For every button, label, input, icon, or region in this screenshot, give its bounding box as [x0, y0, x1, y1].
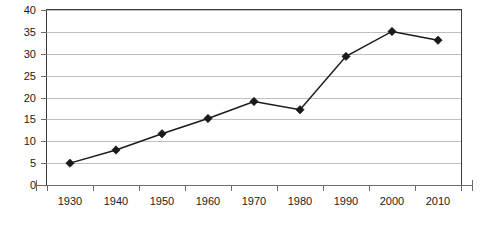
x-tick-label: 2000	[380, 195, 404, 207]
y-tick-label: 10	[24, 135, 36, 147]
x-axis-tick-labels: 193019401950196019701980199020002010	[58, 195, 450, 207]
y-tick-label: 35	[24, 26, 36, 38]
series-marker-group	[66, 27, 442, 167]
data-point-marker	[112, 146, 120, 154]
x-tick-label: 1940	[104, 195, 128, 207]
x-tick-label: 1970	[242, 195, 266, 207]
data-point-marker	[388, 27, 396, 35]
x-tick-label: 2010	[426, 195, 450, 207]
y-axis-tick-labels: 0510152025303540	[24, 4, 36, 191]
y-tick-label: 30	[24, 48, 36, 60]
data-point-marker	[434, 36, 442, 44]
line-chart: 0510152025303540 19301940195019601970198…	[0, 0, 486, 226]
x-tick-label: 1930	[58, 195, 82, 207]
y-tick-label: 5	[30, 157, 36, 169]
x-tick-label: 1980	[288, 195, 312, 207]
y-tick-label: 15	[24, 113, 36, 125]
x-tick-label: 1950	[150, 195, 174, 207]
x-tick-label: 1960	[196, 195, 220, 207]
y-tick-label: 20	[24, 92, 36, 104]
chart-canvas: 0510152025303540 19301940195019601970198…	[0, 0, 486, 226]
data-point-marker	[66, 159, 74, 167]
data-point-marker	[204, 114, 212, 122]
y-tick-label: 25	[24, 70, 36, 82]
data-point-marker	[158, 130, 166, 138]
y-tick-label: 40	[24, 4, 36, 16]
y-tick-label: 0	[30, 179, 36, 191]
x-tick-label: 1990	[334, 195, 358, 207]
